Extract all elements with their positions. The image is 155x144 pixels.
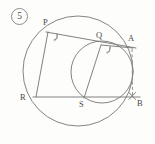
chord-qs — [84, 45, 101, 98]
point-label-s: S — [79, 100, 84, 109]
chord-pa — [46, 32, 136, 48]
geometry-figure: 5 P Q A R S B — [0, 0, 155, 144]
large-circle — [23, 16, 133, 126]
segment-ab-dashed — [132, 49, 133, 96]
small-circle — [71, 41, 133, 103]
figure-canvas — [0, 0, 155, 144]
right-angle-q-icon — [106, 46, 110, 52]
point-label-r: R — [20, 93, 26, 102]
point-label-q: Q — [96, 31, 102, 40]
chord-pr — [36, 32, 48, 97]
right-angle-p-icon — [54, 33, 58, 40]
point-label-b: B — [137, 99, 143, 108]
point-label-a: A — [128, 34, 134, 43]
point-label-p: P — [43, 18, 48, 27]
